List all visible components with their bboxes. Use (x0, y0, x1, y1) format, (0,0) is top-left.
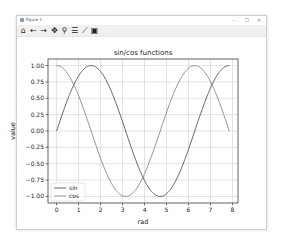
legend-label-cos: cos (69, 192, 79, 199)
chart: sin/cos functions 012345678 −1.00−0.75−0… (0, 0, 282, 240)
y-tick-label: −0.50 (26, 160, 45, 167)
x-tick-label: 3 (121, 206, 125, 213)
y-tick-label: 0.00 (31, 127, 45, 134)
y-axis-label: value (9, 122, 17, 140)
y-tick-label: −0.75 (26, 176, 45, 183)
legend-box (51, 183, 85, 201)
y-tick-label: 0.50 (31, 94, 45, 101)
x-tick-label: 0 (55, 206, 59, 213)
legend: sin cos (51, 183, 85, 201)
y-tick-label: −0.25 (26, 143, 45, 150)
x-tick-label: 6 (187, 206, 191, 213)
y-tick-label: 0.75 (31, 78, 45, 85)
x-tick-label: 8 (231, 206, 235, 213)
x-tick-label: 5 (165, 206, 169, 213)
x-tick-label: 7 (209, 206, 213, 213)
x-tick-label: 4 (143, 206, 147, 213)
y-tick-label: 1.00 (31, 62, 45, 69)
chart-title: sin/cos functions (114, 49, 173, 57)
legend-label-sin: sin (69, 184, 78, 191)
x-tick-label: 1 (77, 206, 81, 213)
x-ticks: 012345678 (55, 203, 235, 213)
x-axis-label: rad (138, 218, 149, 226)
y-tick-label: −1.00 (26, 192, 45, 199)
x-tick-label: 2 (99, 206, 103, 213)
y-ticks: −1.00−0.75−0.50−0.250.000.250.500.751.00 (26, 62, 48, 200)
y-tick-label: 0.25 (31, 111, 45, 118)
